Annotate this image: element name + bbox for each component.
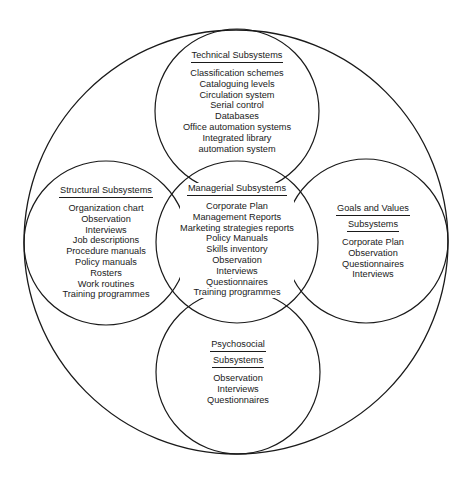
list-item: Serial control <box>183 100 291 111</box>
goals-heading-line2: Subsystems <box>347 219 399 232</box>
structural-items: Organization chart Observation Interview… <box>63 203 150 300</box>
technical-heading: Technical Subsystems <box>191 50 284 63</box>
list-item: Circulation system <box>183 90 291 101</box>
list-item: Job descriptions <box>63 235 150 246</box>
list-item: Policy Manuals <box>180 233 294 244</box>
list-item: Interviews <box>207 384 269 395</box>
goals-block: Goals and Values Subsystems Corporate Pl… <box>318 203 428 280</box>
list-item: Observation <box>207 373 269 384</box>
list-item: Procedure manuals <box>63 246 150 257</box>
list-item: Observation <box>342 248 404 259</box>
list-item: automation system <box>183 144 291 155</box>
list-item: Corporate Plan <box>342 237 404 248</box>
list-item: Questionnaires <box>342 259 404 270</box>
list-item: Office automation systems <box>183 122 291 133</box>
goals-heading-line1: Goals and Values <box>336 203 410 216</box>
list-item: Training programmes <box>63 289 150 300</box>
list-item: Observation <box>180 255 294 266</box>
list-item: Databases <box>183 111 291 122</box>
list-item: Policy manuals <box>63 257 150 268</box>
list-item: Interviews <box>63 225 150 236</box>
list-item: Integrated library <box>183 133 291 144</box>
psychosocial-block: Psychosocial Subsystems Observation Inte… <box>188 339 288 405</box>
list-item: Interviews <box>180 266 294 277</box>
list-item: Management Reports <box>180 212 294 223</box>
technical-block: Technical Subsystems Classification sche… <box>157 50 317 154</box>
managerial-heading: Managerial Subsystems <box>187 183 287 196</box>
list-item: Corporate Plan <box>180 201 294 212</box>
list-item: Marketing strategies reports <box>180 223 294 234</box>
list-item: Work routines <box>63 279 150 290</box>
list-item: Cataloguing levels <box>183 79 291 90</box>
managerial-items: Corporate Plan Management Reports Market… <box>180 201 294 298</box>
list-item: Skills inventory <box>180 244 294 255</box>
psychosocial-heading-line2: Subsystems <box>212 355 264 368</box>
list-item: Observation <box>63 214 150 225</box>
list-item: Interviews <box>342 269 404 280</box>
managerial-block: Managerial Subsystems Corporate Plan Man… <box>172 183 302 298</box>
technical-items: Classification schemes Cataloguing level… <box>183 68 291 154</box>
list-item: Rosters <box>63 268 150 279</box>
structural-block: Structural Subsystems Organization chart… <box>40 185 172 300</box>
psychosocial-items: Observation Interviews Questionnaires <box>207 373 269 405</box>
list-item: Questionnaires <box>180 277 294 288</box>
goals-items: Corporate Plan Observation Questionnaire… <box>342 237 404 280</box>
structural-heading: Structural Subsystems <box>59 185 153 198</box>
list-item: Training programmes <box>180 287 294 298</box>
psychosocial-heading-line1: Psychosocial <box>210 339 266 352</box>
list-item: Questionnaires <box>207 395 269 406</box>
list-item: Organization chart <box>63 203 150 214</box>
list-item: Classification schemes <box>183 68 291 79</box>
